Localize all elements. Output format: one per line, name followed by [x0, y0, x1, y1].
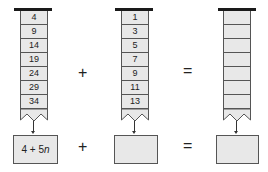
sequence-cell: 3 — [122, 25, 148, 39]
plus-operator: + — [78, 138, 87, 156]
sequence-column-a: 4 9 14 19 24 29 34 4 + 5n — [14, 0, 54, 172]
sequence-cell: 4 — [21, 11, 47, 25]
formula-box: 4 + 5n — [13, 135, 58, 164]
formula-box[interactable] — [114, 135, 158, 164]
sequence-cell: 13 — [122, 95, 148, 109]
sequence-cell[interactable] — [224, 67, 250, 81]
continuation-zigzag-icon — [223, 109, 251, 123]
equals-operator: = — [183, 137, 192, 155]
sequence-cell: 29 — [21, 81, 47, 95]
sequence-cell[interactable] — [224, 95, 250, 109]
sequence-cell: 1 — [122, 11, 148, 25]
formula-box[interactable] — [216, 135, 259, 164]
sequence-stack: 4 9 14 19 24 29 34 — [20, 11, 48, 109]
sequence-cell: 5 — [122, 39, 148, 53]
sequence-stack — [223, 11, 251, 109]
sequence-cell: 24 — [21, 67, 47, 81]
sequence-cell: 9 — [21, 25, 47, 39]
sequence-column-sum — [218, 0, 258, 172]
sequence-cell[interactable] — [224, 81, 250, 95]
sequence-cell: 11 — [122, 81, 148, 95]
sequence-stack: 1 3 5 7 9 11 13 — [121, 11, 149, 109]
arrow-down-icon — [132, 131, 136, 134]
arrow-down-icon — [234, 131, 238, 134]
equals-operator: = — [183, 62, 192, 80]
sequence-cell: 9 — [122, 67, 148, 81]
continuation-zigzag-icon — [121, 109, 149, 123]
plus-operator: + — [78, 64, 87, 82]
sequence-cell: 14 — [21, 39, 47, 53]
sequence-cell: 34 — [21, 95, 47, 109]
sequence-cell[interactable] — [224, 25, 250, 39]
arrow-down-icon — [31, 131, 35, 134]
sequence-cell: 7 — [122, 53, 148, 67]
sequence-cell[interactable] — [224, 11, 250, 25]
sequence-cell[interactable] — [224, 53, 250, 67]
continuation-zigzag-icon — [20, 109, 48, 123]
sequence-column-b: 1 3 5 7 9 11 13 — [115, 0, 155, 172]
sequence-cell: 19 — [21, 53, 47, 67]
sequence-cell[interactable] — [224, 39, 250, 53]
